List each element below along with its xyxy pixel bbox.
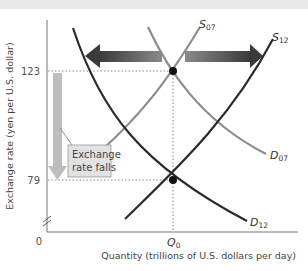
exchange-rate-chart: Exchange rate falls 123 79 0 Q0 Quantity… <box>0 0 308 271</box>
label-D07: D07 <box>270 149 288 163</box>
label-S12: S12 <box>272 31 289 45</box>
rate-falls-callout: Exchange rate falls <box>68 145 121 177</box>
x-tick-q0: Q0 <box>167 236 181 250</box>
rate-falls-arrow <box>48 73 67 180</box>
equilibrium-point-2007 <box>169 67 177 75</box>
label-D12: D12 <box>250 216 268 230</box>
x-axis-label: Quantity (trillions of U.S. dollars per … <box>101 250 296 261</box>
callout-line-1: Exchange <box>72 149 121 160</box>
equilibrium-point-2012 <box>169 176 177 184</box>
callout-line-2: rate falls <box>72 162 116 173</box>
demand-shift-left-arrow <box>85 44 162 68</box>
origin-label: 0 <box>36 236 42 247</box>
y-tick-123: 123 <box>21 66 40 77</box>
supply-shift-right-arrow <box>185 44 263 68</box>
y-tick-79: 79 <box>27 175 40 186</box>
y-axis-label: Exchange rate (yen per U.S. dollar) <box>4 42 15 209</box>
label-S07: S07 <box>199 18 216 32</box>
